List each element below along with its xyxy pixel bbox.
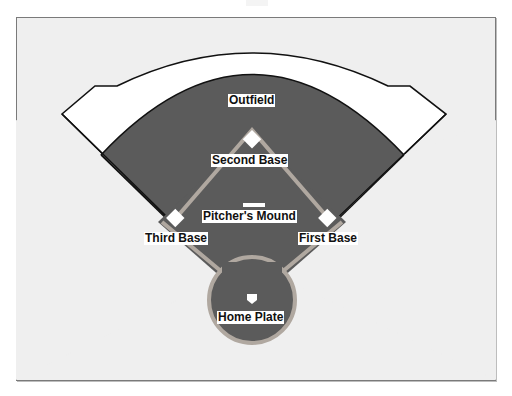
home-connector [222, 262, 282, 276]
third-base-label: Third Base [144, 232, 208, 245]
home-plate-label: Home Plate [217, 311, 284, 324]
outfield-label: Outfield [228, 94, 275, 107]
baseball-field [0, 0, 512, 396]
second-base-label: Second Base [211, 154, 288, 167]
pitchers-mound-label: Pitcher's Mound [202, 210, 297, 223]
pitchers-rubber [243, 203, 265, 207]
first-base-label: First Base [298, 232, 358, 245]
